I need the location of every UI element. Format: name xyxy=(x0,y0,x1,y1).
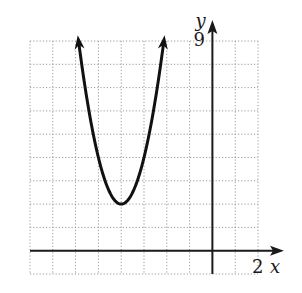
y-tick-label-9: 9 xyxy=(193,29,204,50)
chart: y x 9 2 xyxy=(0,0,302,293)
x-tick-label-2: 2 xyxy=(252,256,263,277)
x-axis-label: x xyxy=(270,256,280,277)
y-axis-label: y xyxy=(194,10,206,31)
axes xyxy=(30,20,284,274)
